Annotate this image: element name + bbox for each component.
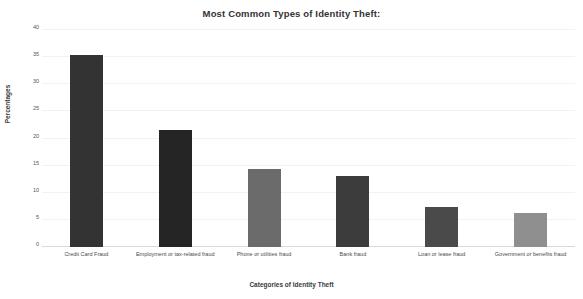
bar[interactable] (336, 176, 369, 247)
x-axis-category-label: Government or benefits fraud (489, 250, 572, 258)
y-axis-tick-label: 35 (25, 51, 39, 57)
bar[interactable] (159, 130, 192, 247)
bar[interactable] (70, 55, 103, 247)
y-axis-title: Percentages (4, 69, 11, 139)
gridline (42, 29, 575, 30)
x-axis-category-label: Loan or lease fraud (400, 250, 483, 258)
y-axis-tick-label: 5 (25, 214, 39, 220)
gridline (42, 110, 575, 111)
y-axis-tick-label: 10 (25, 187, 39, 193)
gridline (42, 165, 575, 166)
gridline (42, 56, 575, 57)
bar[interactable] (425, 207, 458, 247)
x-axis-category-labels: Credit Card FraudEmployment or tax-relat… (42, 250, 575, 276)
y-axis-tick-label: 25 (25, 105, 39, 111)
x-axis-line (42, 246, 575, 247)
bar-chart: Most Common Types of Identity Theft: Per… (0, 0, 583, 299)
y-axis-tick-label: 30 (25, 78, 39, 84)
y-axis-tick-label: 40 (25, 24, 39, 30)
x-axis-title: Categories of Identity Theft (0, 281, 583, 288)
bar[interactable] (514, 213, 547, 247)
plot-area: 0510152025303540 (42, 30, 575, 247)
x-axis-category-label: Employment or tax-related fraud (134, 250, 217, 258)
x-axis-category-label: Bank fraud (312, 250, 395, 258)
bar[interactable] (248, 169, 281, 247)
y-axis-tick-label: 15 (25, 160, 39, 166)
gridline (42, 219, 575, 220)
y-axis-tick-label: 20 (25, 133, 39, 139)
x-axis-category-label: Phone or utilities fraud (223, 250, 306, 258)
chart-title: Most Common Types of Identity Theft: (0, 8, 583, 19)
gridline (42, 192, 575, 193)
x-axis-category-label: Credit Card Fraud (45, 250, 128, 258)
y-axis-tick-label: 0 (25, 241, 39, 247)
gridline (42, 138, 575, 139)
gridline (42, 83, 575, 84)
